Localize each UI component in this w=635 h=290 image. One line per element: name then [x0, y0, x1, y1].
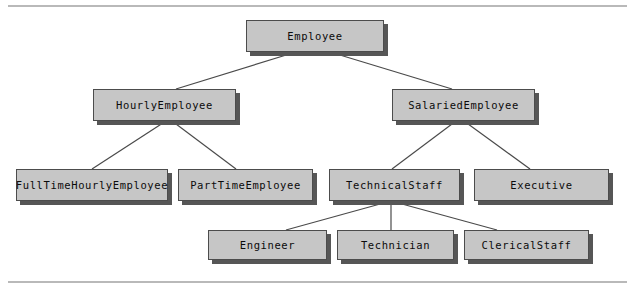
class-node-technician[interactable]: Technician	[337, 230, 454, 260]
edge-technical_staff-to-clerical_staff	[391, 201, 497, 230]
class-node-hourly_employee[interactable]: HourlyEmployee	[93, 89, 236, 121]
class-node-parttime_employee[interactable]: PartTimeEmployee	[178, 169, 313, 201]
edge-technical_staff-to-engineer	[286, 201, 391, 230]
class-node-label: Engineer	[240, 239, 295, 251]
class-node-label: TechnicalStaff	[346, 179, 443, 191]
edge-employee-to-hourly_employee	[176, 52, 296, 89]
edge-salaried_employee-to-executive	[464, 121, 530, 169]
class-node-label: HourlyEmployee	[116, 99, 213, 111]
class-node-engineer[interactable]: Engineer	[208, 230, 327, 260]
class-hierarchy-diagram: EmployeeHourlyEmployeeSalariedEmployeeFu…	[0, 0, 635, 290]
edge-salaried_employee-to-technical_staff	[392, 121, 456, 169]
edge-employee-to-salaried_employee	[330, 52, 452, 89]
class-node-label: Technician	[361, 239, 430, 251]
edge-hourly_employee-to-fulltime_hourly	[92, 121, 166, 169]
class-node-employee[interactable]: Employee	[246, 20, 384, 52]
class-node-label: Executive	[510, 179, 572, 191]
class-node-salaried_employee[interactable]: SalariedEmployee	[392, 89, 535, 121]
edge-hourly_employee-to-parttime_employee	[172, 121, 236, 169]
class-node-technical_staff[interactable]: TechnicalStaff	[329, 169, 460, 201]
class-node-executive[interactable]: Executive	[474, 169, 609, 201]
class-node-label: Employee	[287, 30, 342, 42]
class-node-clerical_staff[interactable]: ClericalStaff	[464, 230, 589, 260]
class-node-label: SalariedEmployee	[408, 99, 519, 111]
class-node-label: ClericalStaff	[482, 239, 572, 251]
class-node-fulltime_hourly[interactable]: FullTimeHourlyEmployee	[16, 169, 168, 201]
class-node-label: PartTimeEmployee	[190, 179, 301, 191]
class-node-label: FullTimeHourlyEmployee	[16, 179, 168, 191]
